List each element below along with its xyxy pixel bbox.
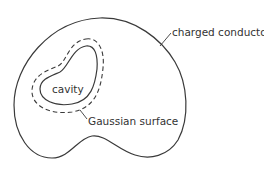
gaussian-surface-label: Gaussian surface [88, 115, 178, 127]
cavity-outline [40, 46, 97, 105]
conductor-leader-line [160, 33, 171, 46]
gaussian-leader-line [80, 110, 87, 119]
gaussian-surface-outline [32, 39, 103, 113]
charged-conductor-label: charged conductor [172, 26, 264, 38]
conductor-cavity-diagram: charged conductor cavity Gaussian surfac… [0, 0, 264, 169]
cavity-label: cavity [52, 83, 84, 95]
